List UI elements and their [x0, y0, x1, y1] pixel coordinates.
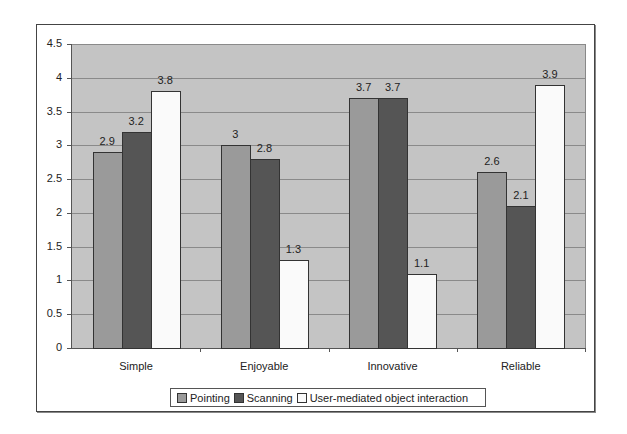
y-tick-label: 0 [32, 341, 62, 353]
legend-label: Pointing [190, 392, 230, 404]
legend-label: Scanning [247, 392, 293, 404]
legend-swatch-icon [297, 393, 307, 403]
legend-item-user-mediated: User-mediated object interaction [295, 392, 468, 404]
y-tick [67, 280, 71, 281]
y-tick-label: 2.5 [32, 172, 62, 184]
y-axis [71, 44, 72, 349]
bar [407, 274, 437, 349]
y-tick-label: 1 [32, 273, 62, 285]
x-tick [329, 348, 330, 352]
x-tick [585, 348, 586, 352]
y-tick-label: 4.5 [32, 37, 62, 49]
gridline [72, 44, 585, 45]
bar [378, 98, 408, 349]
y-tick-label: 3 [32, 138, 62, 150]
y-tick-label: 1.5 [32, 240, 62, 252]
legend-swatch-icon [177, 393, 187, 403]
data-label: 3 [215, 128, 255, 140]
y-tick [67, 213, 71, 214]
bar [535, 85, 565, 349]
y-tick [67, 179, 71, 180]
data-label: 3.9 [530, 68, 570, 80]
y-tick [67, 247, 71, 248]
data-label: 1.1 [402, 257, 442, 269]
x-tick-label: Innovative [329, 360, 457, 372]
bar [151, 91, 181, 349]
y-tick [67, 78, 71, 79]
x-tick [457, 348, 458, 352]
y-tick-label: 4 [32, 71, 62, 83]
data-label: 3.7 [373, 81, 413, 93]
bar [506, 206, 536, 349]
y-tick-label: 0.5 [32, 307, 62, 319]
data-label: 2.8 [244, 142, 284, 154]
bar [221, 145, 251, 349]
data-label: 3.8 [145, 74, 185, 86]
gridline [72, 112, 585, 113]
legend-item-scanning: Scanning [232, 392, 293, 404]
y-tick [67, 112, 71, 113]
y-tick [67, 44, 71, 45]
bar [279, 260, 309, 349]
bar [122, 132, 152, 349]
legend-swatch-icon [234, 393, 244, 403]
data-label: 1.3 [273, 243, 313, 255]
x-tick-label: Simple [72, 360, 200, 372]
y-tick [67, 314, 71, 315]
bar [349, 98, 379, 349]
legend-item-pointing: Pointing [175, 392, 230, 404]
y-tick-label: 2 [32, 206, 62, 218]
legend-label: User-mediated object interaction [310, 392, 468, 404]
data-label: 2.6 [472, 155, 512, 167]
y-tick [67, 145, 71, 146]
legend: Pointing Scanning User-mediated object i… [170, 388, 486, 407]
y-tick [67, 348, 71, 349]
bar [93, 152, 123, 349]
x-tick-label: Reliable [457, 360, 585, 372]
x-tick-label: Enjoyable [200, 360, 328, 372]
x-tick [200, 348, 201, 352]
y-tick-label: 3.5 [32, 105, 62, 117]
